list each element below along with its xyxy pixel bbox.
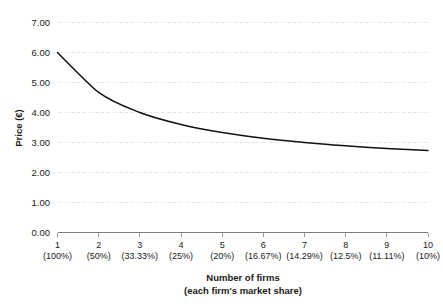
y-tick-label: 2.00 [32, 167, 51, 178]
y-axis-title-group: Price (€) [13, 109, 24, 147]
y-tick-label: 6.00 [32, 47, 51, 58]
y-axis-title: Price (€) [13, 109, 24, 147]
x-axis-subtitle: (each firm's market share) [184, 285, 302, 296]
x-tick-sublabel: (33.33%) [122, 251, 159, 261]
x-tick-label: 2 [96, 240, 101, 250]
x-tick-sublabel: (10%) [416, 251, 440, 261]
x-tick-label: 10 [423, 240, 433, 250]
x-tick-label: 1 [55, 240, 60, 250]
x-tick-label: 6 [261, 240, 266, 250]
y-tick-label: 7.00 [32, 17, 51, 28]
x-axis-title: Number of firms [206, 272, 279, 283]
y-tick-label: 4.00 [32, 107, 51, 118]
x-tick-label: 9 [384, 240, 389, 250]
x-tick-label: 8 [343, 240, 348, 250]
x-tick-sublabel: (16.67%) [245, 251, 282, 261]
x-tick-sublabel: (12.5%) [330, 251, 362, 261]
x-tick-label: 3 [137, 240, 142, 250]
y-tick-label: 3.00 [32, 137, 51, 148]
x-tick-sublabel: (20%) [210, 251, 234, 261]
x-tick-label: 5 [220, 240, 225, 250]
y-tick-label: 0.00 [32, 227, 51, 238]
x-tick-sublabel: (25%) [169, 251, 193, 261]
x-tick-sublabel: (11.11%) [369, 251, 404, 261]
chart-container: 7.006.005.004.003.002.001.000.00 1(100%)… [0, 0, 443, 304]
price-vs-firms-line-chart: 7.006.005.004.003.002.001.000.00 1(100%)… [0, 0, 443, 304]
x-tick-label: 4 [178, 240, 183, 250]
x-tick-label: 7 [302, 240, 307, 250]
x-tick-sublabel: (100%) [43, 251, 72, 261]
x-tick-sublabel: (50%) [87, 251, 111, 261]
x-tick-sublabel: (14.29%) [286, 251, 323, 261]
y-tick-label: 1.00 [32, 197, 51, 208]
y-tick-label: 5.00 [32, 77, 51, 88]
